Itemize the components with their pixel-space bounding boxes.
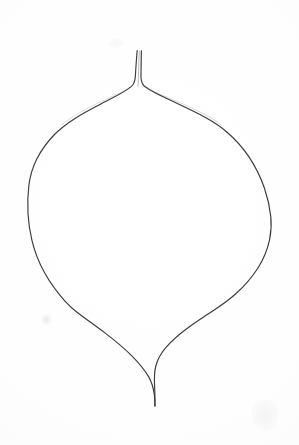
drawing-canvas: Hand-drawn onion-dome outline A single c…	[0, 0, 299, 445]
right-contour-path	[141, 51, 271, 406]
line-drawing: Hand-drawn onion-dome outline A single c…	[0, 0, 299, 445]
left-contour-path	[28, 51, 155, 407]
apex-spike-ghost-path	[138, 52, 139, 87]
